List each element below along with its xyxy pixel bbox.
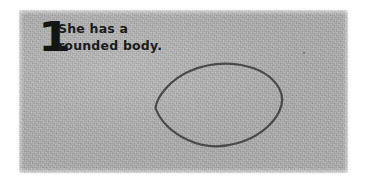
caption-line-1: She has a — [58, 20, 198, 37]
scan-speck — [303, 52, 305, 54]
drawing-step-page: 1 She has a rounded body. — [0, 0, 370, 183]
step-caption: She has a rounded body. — [58, 20, 198, 54]
caption-line-2: rounded body. — [58, 37, 198, 54]
rounded-body-outline-icon — [156, 64, 283, 146]
